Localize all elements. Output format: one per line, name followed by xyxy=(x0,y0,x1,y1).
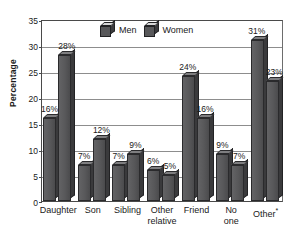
bar-side-face xyxy=(244,159,248,198)
y-axis-tick-label: 15 xyxy=(29,120,38,130)
bar-value-label: 31% xyxy=(248,26,265,36)
legend-item-women: Women xyxy=(144,22,194,37)
bar-value-label: 5% xyxy=(164,161,176,171)
bar-front-face xyxy=(197,118,210,201)
legend-label: Women xyxy=(163,25,194,35)
y-axis-tick-label: 20 xyxy=(29,94,38,104)
bar-front-face xyxy=(231,165,244,201)
y-axis-tick-mark xyxy=(39,202,42,203)
bar-men-son: 7% xyxy=(78,165,91,201)
bar-value-label: 9% xyxy=(216,140,228,150)
bar-front-face xyxy=(127,154,140,201)
bar-chart: Percentage 05101520253035 16%28%7%12%7%9… xyxy=(0,0,298,248)
bar-value-label: 6% xyxy=(147,156,159,166)
bar-group: 7%12% xyxy=(77,21,112,201)
legend: MenWomen xyxy=(97,21,196,38)
bar-group: 24%16% xyxy=(180,21,215,201)
bar-men-other-relative: 6% xyxy=(147,170,160,201)
bar-front-face xyxy=(251,40,264,201)
y-axis-tick-label: 25 xyxy=(29,68,38,78)
bar-front-face xyxy=(162,175,175,201)
bar-value-label: 28% xyxy=(58,41,75,51)
y-axis-tick-label: 30 xyxy=(29,42,38,52)
bar-women-son: 12% xyxy=(93,139,106,201)
bar-value-label: 7% xyxy=(233,151,245,161)
bar-men-other: 31% xyxy=(251,40,264,201)
bar-side-face xyxy=(106,133,110,198)
bar-group: 9%7% xyxy=(215,21,250,201)
bar-value-label: 24% xyxy=(179,62,196,72)
bar-men-no-one: 9% xyxy=(216,154,229,201)
bar-front-face xyxy=(112,165,125,201)
cube-icon xyxy=(100,22,115,37)
legend-item-men: Men xyxy=(100,22,137,37)
y-axis-tick-label: 10 xyxy=(29,146,38,156)
plot-area: 05101520253035 16%28%7%12%7%9%6%5%24%16%… xyxy=(41,20,283,202)
cube-icon xyxy=(144,22,159,37)
bar-front-face xyxy=(43,118,56,201)
bar-value-label: 12% xyxy=(93,125,110,135)
bar-value-label: 9% xyxy=(129,140,141,150)
bar-women-other: 23% xyxy=(266,81,279,201)
bar-value-label: 7% xyxy=(78,151,90,161)
bar-men-friend: 24% xyxy=(182,76,195,201)
bar-men-daughter: 16% xyxy=(43,118,56,201)
y-axis-tick-label: 5 xyxy=(33,172,38,182)
bar-value-label: 7% xyxy=(113,151,125,161)
bar-men-sibling: 7% xyxy=(112,165,125,201)
cube-front xyxy=(100,26,111,37)
bar-value-label: 23% xyxy=(266,67,283,77)
bar-front-face xyxy=(216,154,229,201)
bar-side-face xyxy=(210,112,214,198)
bar-front-face xyxy=(182,76,195,201)
bar-side-face xyxy=(140,148,144,198)
bar-side-face xyxy=(279,76,283,198)
bar-value-label: 16% xyxy=(197,104,214,114)
bar-group: 16%28% xyxy=(42,21,77,201)
y-axis-title: Percentage xyxy=(8,38,18,128)
bar-women-friend: 16% xyxy=(197,118,210,201)
bar-front-face xyxy=(78,165,91,201)
cube-front xyxy=(144,26,155,37)
bar-women-no-one: 7% xyxy=(231,165,244,201)
bar-front-face xyxy=(58,55,71,201)
legend-label: Men xyxy=(119,25,137,35)
bar-group: 7%9% xyxy=(111,21,146,201)
bar-group: 6%5% xyxy=(146,21,181,201)
bar-value-label: 16% xyxy=(41,104,58,114)
bar-front-face xyxy=(147,170,160,201)
y-axis-tick-label: 35 xyxy=(29,16,38,26)
bar-women-sibling: 9% xyxy=(127,154,140,201)
bar-women-other-relative: 5% xyxy=(162,175,175,201)
bar-side-face xyxy=(71,50,75,198)
bar-front-face xyxy=(266,81,279,201)
bar-group: 31%23% xyxy=(249,21,284,201)
x-axis-tick-label: Other* xyxy=(236,205,296,220)
bar-front-face xyxy=(93,139,106,201)
bar-women-daughter: 28% xyxy=(58,55,71,201)
